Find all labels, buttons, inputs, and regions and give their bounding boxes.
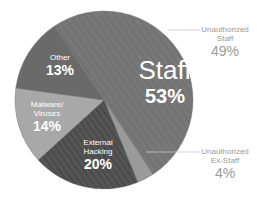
slice-label-external: External Hacking 20%: [73, 139, 123, 172]
external-pct: 20%: [73, 157, 123, 172]
slice-label-malware: Malware/ Viruses 14%: [22, 101, 72, 134]
staff-pct: 53%: [130, 85, 200, 107]
callout-unauthorized-staff: Unauthorized Staff 49%: [194, 26, 256, 59]
malware-pct: 14%: [22, 119, 72, 134]
slice-label-staff: Staff 53%: [130, 56, 200, 107]
slice-label-other: Other 13%: [40, 54, 80, 78]
staff-name: Staff: [130, 56, 200, 85]
unauth-staff-pct: 49%: [194, 44, 256, 59]
callout-unauthorized-exstaff: Unauthorized Ex-Staff 4%: [194, 148, 256, 181]
unauth-exstaff-pct: 4%: [194, 166, 256, 181]
other-pct: 13%: [40, 63, 80, 78]
